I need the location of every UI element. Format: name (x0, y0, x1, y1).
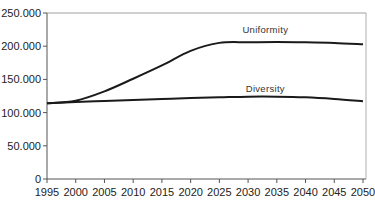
x-tick-label: 2000 (63, 186, 87, 198)
x-tick-label: 2015 (150, 186, 174, 198)
series-line-diversity (47, 97, 363, 104)
series-label-diversity: Diversity (246, 83, 285, 94)
x-tick-label: 2045 (322, 186, 346, 198)
y-tick-label: 250.000 (1, 7, 41, 19)
x-tick-label: 2020 (178, 186, 202, 198)
x-tick-label: 2010 (121, 186, 145, 198)
series-labels: UniformityDiversity (242, 24, 288, 94)
x-tick-label: 1995 (35, 186, 59, 198)
series-line-uniformity (47, 42, 363, 103)
y-tick-label: 0 (35, 173, 41, 185)
x-tick-label: 2030 (236, 186, 260, 198)
x-tick-label: 2005 (92, 186, 116, 198)
line-chart: 050.000100.000150.000200.000250.00019952… (0, 0, 375, 203)
y-tick-label: 150.000 (1, 73, 41, 85)
x-tick-label: 2035 (265, 186, 289, 198)
series-lines (47, 42, 363, 103)
x-tick-label: 2025 (207, 186, 231, 198)
y-tick-label: 50.000 (7, 140, 41, 152)
x-tick-label: 2040 (293, 186, 317, 198)
y-tick-label: 200.000 (1, 40, 41, 52)
x-tick-label: 2050 (351, 186, 375, 198)
series-label-uniformity: Uniformity (242, 24, 288, 35)
y-tick-label: 100.000 (1, 107, 41, 119)
